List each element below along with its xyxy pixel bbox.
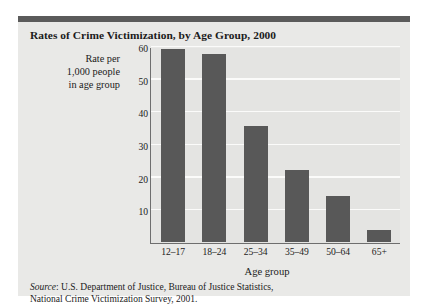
x-tick-label: 35–49 bbox=[285, 246, 309, 257]
x-axis-title: Age group bbox=[134, 266, 400, 277]
y-tick-label-10: 10 bbox=[118, 206, 148, 217]
bar-group: 35–49 bbox=[276, 48, 317, 242]
panel-accent-bar bbox=[18, 16, 410, 22]
bar bbox=[202, 54, 226, 242]
chart-title: Rates of Crime Victimization, by Age Gro… bbox=[30, 29, 276, 41]
bar-group: 25–34 bbox=[235, 48, 276, 242]
x-tick-label: 50–64 bbox=[326, 246, 350, 257]
x-tick-label: 25–34 bbox=[244, 246, 268, 257]
bar-group: 12–17 bbox=[153, 48, 194, 242]
gridline-60 bbox=[151, 46, 400, 48]
bar-group: 65+ bbox=[359, 48, 400, 242]
y-axis-caption: Rate per 1,000 people in age group bbox=[22, 52, 120, 92]
plot-area-wrapper: 12–1718–2425–3435–4950–6465+ 10203040506… bbox=[134, 48, 400, 245]
source-note: Source: U.S. Department of Justice, Bure… bbox=[30, 282, 400, 305]
source-line-1: : U.S. Department of Justice, Bureau of … bbox=[56, 282, 273, 292]
source-line-2: National Crime Victimization Survey, 200… bbox=[30, 294, 198, 304]
x-tick-label: 65+ bbox=[372, 246, 387, 257]
plot-area: 12–1718–2425–3435–4950–6465+ bbox=[150, 48, 400, 244]
bar-group: 50–64 bbox=[318, 48, 359, 242]
y-tick-label-60: 60 bbox=[118, 43, 148, 54]
bar bbox=[367, 230, 391, 241]
bar bbox=[326, 196, 350, 242]
bar bbox=[161, 49, 185, 242]
y-tick-label-50: 50 bbox=[118, 75, 148, 86]
y-axis-caption-line-3: in age group bbox=[22, 78, 120, 91]
chart-panel: Rates of Crime Victimization, by Age Gro… bbox=[18, 16, 410, 296]
bar bbox=[285, 170, 309, 242]
x-tick-label: 12–17 bbox=[161, 246, 185, 257]
y-tick-label-30: 30 bbox=[118, 141, 148, 152]
x-tick-label: 18–24 bbox=[202, 246, 226, 257]
figure-screenshot: Rates of Crime Victimization, by Age Gro… bbox=[0, 0, 427, 307]
bar bbox=[244, 126, 268, 242]
y-tick-label-40: 40 bbox=[118, 108, 148, 119]
y-axis-caption-line-2: 1,000 people bbox=[22, 65, 120, 78]
source-label: Source bbox=[30, 282, 56, 292]
bar-series: 12–1718–2425–3435–4950–6465+ bbox=[153, 48, 401, 242]
y-tick-label-20: 20 bbox=[118, 173, 148, 184]
bar-group: 18–24 bbox=[194, 48, 235, 242]
y-axis-caption-line-1: Rate per bbox=[22, 52, 120, 65]
